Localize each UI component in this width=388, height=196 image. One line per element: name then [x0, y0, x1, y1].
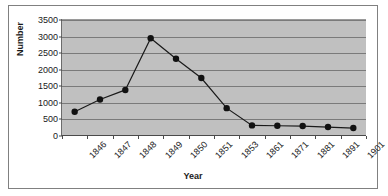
data-point-marker — [173, 56, 179, 62]
x-axis-tick-label: 1861 — [265, 140, 286, 161]
y-axis-title: Number — [15, 22, 25, 56]
x-axis-tick-label: 1850 — [189, 140, 210, 161]
y-axis-tick-label: 2000 — [38, 65, 58, 74]
data-point-marker — [223, 105, 229, 111]
y-axis-tick-label: 1000 — [38, 98, 58, 107]
chart-frame: Number 0500100015002000250030003500 1846… — [8, 5, 378, 189]
x-axis-tick-mark — [62, 136, 63, 139]
data-point-marker — [299, 123, 305, 129]
x-axis-tick-mark — [138, 136, 139, 139]
y-axis-tick-label: 500 — [43, 115, 58, 124]
x-axis-tick-label: 1853 — [240, 140, 261, 161]
x-axis-tick-label: 1901 — [366, 140, 387, 161]
plot-area: 0500100015002000250030003500 18461847184… — [61, 19, 366, 136]
y-axis-tick-label: 2500 — [38, 49, 58, 58]
data-point-marker — [97, 96, 103, 102]
data-point-marker — [122, 87, 128, 93]
x-axis-tick-label: 1881 — [316, 140, 337, 161]
y-axis-tick-label: 0 — [53, 132, 58, 141]
series-polyline — [75, 38, 354, 128]
data-point-marker — [198, 75, 204, 81]
x-axis-tick-mark — [163, 136, 164, 139]
data-point-marker — [147, 35, 153, 41]
x-axis-tick-mark — [239, 136, 240, 139]
data-point-marker — [325, 124, 331, 130]
x-axis-title: Year — [9, 171, 377, 181]
x-axis-tick-label: 1847 — [113, 140, 134, 161]
x-axis-tick-mark — [113, 136, 114, 139]
x-axis-tick-mark — [290, 136, 291, 139]
x-axis-tick-label: 1871 — [290, 140, 311, 161]
y-axis-tick-label: 3000 — [38, 32, 58, 41]
data-point-marker — [350, 125, 356, 131]
x-axis-tick-label: 1891 — [341, 140, 362, 161]
x-axis-tick-mark — [189, 136, 190, 139]
data-point-marker — [71, 109, 77, 115]
x-axis-tick-mark — [341, 136, 342, 139]
data-point-marker — [249, 122, 255, 128]
y-axis-tick-label: 3500 — [38, 16, 58, 25]
x-axis-tick-mark — [87, 136, 88, 139]
x-axis-tick-mark — [366, 136, 367, 139]
x-axis-tick-mark — [214, 136, 215, 139]
x-axis-tick-mark — [315, 136, 316, 139]
series-line-number — [62, 20, 366, 136]
x-axis-tick-label: 1851 — [214, 140, 235, 161]
x-axis-tick-label: 1849 — [164, 140, 185, 161]
data-point-marker — [274, 123, 280, 129]
x-axis-tick-label: 1848 — [138, 140, 159, 161]
x-axis-tick-mark — [265, 136, 266, 139]
y-axis-tick-label: 1500 — [38, 82, 58, 91]
x-axis-tick-label: 1846 — [88, 140, 109, 161]
